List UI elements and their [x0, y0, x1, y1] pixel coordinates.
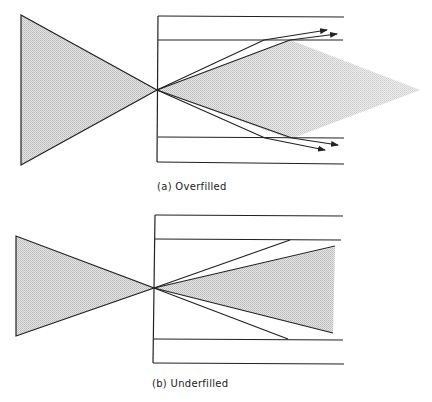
input-cone: [21, 15, 157, 165]
input-cone: [16, 236, 154, 336]
output-cone: [154, 247, 335, 333]
caption-underfilled: (b) Underfilled: [152, 378, 228, 389]
diagram-underfilled: [16, 215, 344, 364]
fiber-fill-diagrams: [0, 0, 432, 402]
diagram-overfilled: [21, 15, 420, 165]
caption-overfilled: (a) Overfilled: [157, 181, 227, 192]
